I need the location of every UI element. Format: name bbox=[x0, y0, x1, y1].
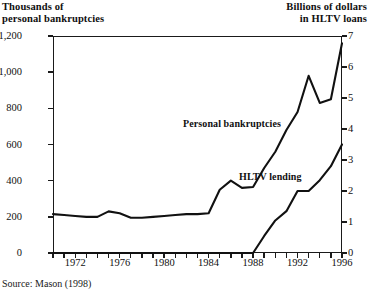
right-ticklabel: 4 bbox=[348, 124, 353, 135]
left-axis-title-line2: personal bankruptcies bbox=[2, 13, 104, 25]
right-axis-title: Billions of dollars in HLTV loans bbox=[286, 1, 367, 24]
chart-figure: Thousands of personal bankruptcies Billi… bbox=[0, 0, 370, 290]
x-ticklabel: 1996 bbox=[332, 258, 353, 269]
x-ticklabel: 1980 bbox=[154, 258, 175, 269]
x-ticklabel: 1976 bbox=[109, 258, 130, 269]
right-ticklabel: 5 bbox=[348, 93, 353, 104]
right-ticklabel: 3 bbox=[348, 155, 353, 166]
plot-area bbox=[53, 36, 342, 253]
left-ticklabel: 400 bbox=[6, 176, 22, 187]
left-ticklabel: 800 bbox=[6, 103, 22, 114]
left-axis-title-line1: Thousands of bbox=[2, 1, 64, 12]
right-tick bbox=[342, 66, 347, 67]
right-ticklabel: 2 bbox=[348, 186, 353, 197]
x-tick bbox=[275, 253, 276, 258]
right-tick bbox=[342, 159, 347, 160]
left-ticklabel: 1,000 bbox=[0, 67, 22, 78]
series-line bbox=[53, 145, 342, 254]
right-tick bbox=[342, 252, 347, 253]
series-lines bbox=[53, 36, 342, 253]
right-ticklabel: 1 bbox=[348, 217, 353, 228]
series-annotation-personal-bankruptcies: Personal bankruptcies bbox=[183, 119, 281, 129]
right-tick bbox=[342, 35, 347, 36]
x-tick bbox=[308, 253, 309, 258]
right-axis-title-line1: Billions of dollars bbox=[286, 1, 367, 12]
left-ticklabel: 1,200 bbox=[0, 31, 22, 42]
left-ticklabel: 600 bbox=[6, 140, 22, 151]
right-ticklabel: 6 bbox=[348, 62, 353, 73]
x-ticklabel: 1992 bbox=[287, 258, 308, 269]
right-axis-title-line2: in HLTV loans bbox=[286, 13, 367, 25]
left-axis-title: Thousands of personal bankruptcies bbox=[2, 1, 104, 24]
x-ticklabel: 1972 bbox=[65, 258, 86, 269]
source-note: Source: Mason (1998) bbox=[2, 279, 91, 289]
right-ticklabel: 7 bbox=[348, 31, 353, 42]
x-tick bbox=[319, 253, 320, 258]
x-tick bbox=[263, 253, 264, 258]
x-ticklabel: 1988 bbox=[243, 258, 264, 269]
right-tick bbox=[342, 190, 347, 191]
left-ticklabel: 0 bbox=[17, 248, 22, 259]
right-tick bbox=[342, 221, 347, 222]
series-annotation-hltv-lending: HLTV lending bbox=[239, 172, 302, 182]
x-ticklabel: 1984 bbox=[198, 258, 219, 269]
right-tick bbox=[342, 128, 347, 129]
right-tick bbox=[342, 97, 347, 98]
left-ticklabel: 200 bbox=[6, 212, 22, 223]
